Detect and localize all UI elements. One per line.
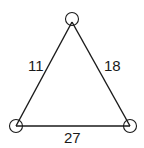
edge-weight-bottom: 27 [64, 129, 81, 146]
edge-top-bottom-right [72, 22, 130, 126]
edge-weight-right: 18 [104, 57, 121, 74]
triangle-graph-diagram: 11 18 27 [0, 0, 144, 148]
edge-top-bottom-left [16, 22, 72, 126]
node-top [66, 13, 79, 26]
edge-weight-left: 11 [28, 57, 44, 74]
